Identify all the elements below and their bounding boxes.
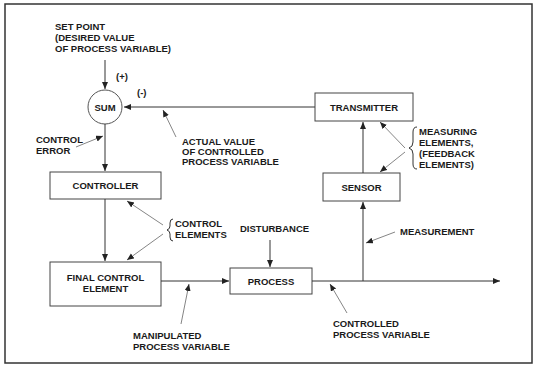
process-block: PROCESS	[230, 268, 312, 294]
svg-text:CONTROLLED: CONTROLLED	[333, 318, 399, 329]
svg-text:PROCESS VARIABLE: PROCESS VARIABLE	[333, 329, 430, 340]
actual-value-label: ACTUAL VALUE OF CONTROLLED PROCESS VARIA…	[182, 136, 279, 167]
manipulated-variable-label: MANIPULATED PROCESS VARIABLE	[133, 330, 230, 352]
svg-text:ELEMENTS: ELEMENTS	[175, 229, 227, 240]
actual-value-pointer	[163, 110, 176, 137]
svg-text:PROCESS VARIABLE: PROCESS VARIABLE	[182, 156, 279, 167]
controller-block: CONTROLLER	[50, 172, 161, 199]
control-elements-pointer-top	[127, 201, 163, 225]
svg-text:MANIPULATED: MANIPULATED	[133, 330, 202, 341]
svg-text:ELEMENTS): ELEMENTS)	[419, 159, 474, 170]
svg-text:CONTROL: CONTROL	[36, 134, 83, 145]
svg-text:ELEMENT: ELEMENT	[83, 283, 129, 294]
control-elements-label: CONTROL ELEMENTS	[175, 218, 227, 240]
measurement-pointer	[366, 232, 395, 243]
sensor-block: SENSOR	[323, 173, 400, 201]
controlled-variable-label: CONTROLLED PROCESS VARIABLE	[333, 318, 430, 340]
svg-text:TRANSMITTER: TRANSMITTER	[330, 102, 398, 113]
svg-text:CONTROL: CONTROL	[175, 218, 222, 229]
disturbance-label: DISTURBANCE	[240, 223, 309, 234]
svg-text:OF PROCESS VARIABLE): OF PROCESS VARIABLE)	[55, 43, 171, 54]
control-error-label: CONTROL ERROR	[36, 134, 83, 156]
svg-text:SET POINT: SET POINT	[55, 21, 105, 32]
svg-text:SUM: SUM	[94, 102, 115, 113]
svg-text:PROCESS VARIABLE: PROCESS VARIABLE	[133, 341, 230, 352]
plus-sign: (+)	[116, 71, 128, 82]
svg-text:(DESIRED VALUE: (DESIRED VALUE	[55, 32, 135, 43]
control-loop-diagram: SET POINT (DESIRED VALUE OF PROCESS VARI…	[0, 0, 536, 366]
svg-text:(FEEDBACK: (FEEDBACK	[419, 148, 475, 159]
measurement-label: MEASUREMENT	[400, 226, 475, 237]
control-elements-pointer-bottom	[127, 234, 163, 260]
svg-text:MEASURING: MEASURING	[419, 126, 477, 137]
svg-text:SENSOR: SENSOR	[341, 182, 381, 193]
svg-text:CONTROLLER: CONTROLLER	[73, 180, 139, 191]
measuring-elements-label: MEASURING ELEMENTS, (FEEDBACK ELEMENTS)	[419, 126, 477, 170]
measuring-pointer-top	[380, 122, 405, 148]
measuring-elements-brace	[409, 127, 417, 169]
control-elements-brace	[167, 219, 173, 241]
svg-text:PROCESS: PROCESS	[248, 276, 294, 287]
manipulated-pointer	[181, 284, 189, 324]
sum-junction: SUM	[88, 90, 122, 124]
set-point-label: SET POINT (DESIRED VALUE OF PROCESS VARI…	[55, 21, 171, 54]
final-control-element-block: FINAL CONTROL ELEMENT	[50, 262, 161, 306]
transmitter-block: TRANSMITTER	[315, 93, 413, 121]
controlled-pointer	[330, 284, 347, 313]
svg-text:FINAL CONTROL: FINAL CONTROL	[67, 272, 145, 283]
svg-text:ELEMENTS,: ELEMENTS,	[419, 137, 473, 148]
measuring-pointer-bottom	[380, 152, 405, 172]
minus-sign: (-)	[137, 87, 147, 98]
svg-text:ERROR: ERROR	[36, 145, 70, 156]
